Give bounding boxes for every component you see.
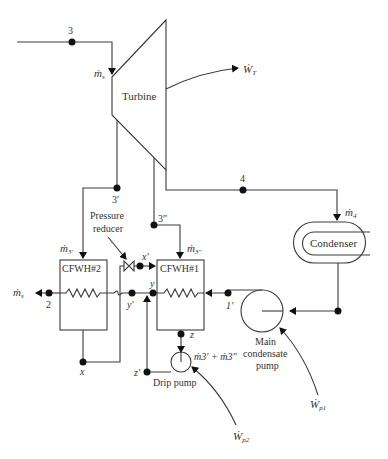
- drip-flow-label: ṁ3′ + ṁ3″: [194, 351, 237, 362]
- turbine-work-label: ẆT: [243, 63, 257, 77]
- extraction-3prime: 3′ ṁ3′: [60, 120, 121, 258]
- cfwh1: CFWH#1 z: [157, 260, 204, 352]
- pump1-work-arrow: [280, 328, 318, 395]
- pump2-work-label: Ẇp2: [233, 430, 250, 444]
- state-xp-label: x′: [141, 251, 149, 262]
- ms-in-label: ṁs: [94, 67, 105, 81]
- turbine: Turbine ẆT: [112, 20, 257, 170]
- pump1-work-label: Ẇp1: [310, 398, 326, 412]
- turbine-work-arrow: [166, 68, 238, 89]
- state-y-label: y: [149, 278, 155, 289]
- feedwater-heater-cycle-diagram: 3 ṁs Turbine ẆT 3′ ṁ3′ 3″ ṁ3″ 4 ṁ4 Conde…: [0, 0, 388, 459]
- condenser-label: Condenser: [310, 237, 357, 249]
- pressure-reducer-valve: [124, 261, 134, 271]
- turbine-label: Turbine: [122, 90, 157, 102]
- state-3pp-label: 3″: [158, 213, 167, 224]
- ms-out-label: ṁs: [13, 286, 24, 300]
- m3p-label: ṁ3′: [60, 242, 73, 256]
- pressure-reducer-label-1: Pressure: [90, 210, 124, 221]
- state-1p-label: 1′: [226, 300, 234, 311]
- condenser: Condenser: [290, 222, 370, 315]
- drip-pump: z′ Drip pump ṁ3′ + ṁ3″ Ẇp2: [133, 296, 250, 444]
- state-3p-label: 3′: [112, 194, 119, 205]
- pressure-reducer-label-2: reducer: [93, 223, 124, 234]
- exhaust-line-4: 4 ṁ4: [166, 170, 357, 220]
- state-x-label: x: [79, 366, 85, 377]
- state-4-label: 4: [240, 173, 245, 184]
- main-pump-label-3: pump: [256, 360, 279, 371]
- state-zp-label: z′: [133, 367, 141, 378]
- m3pp-label: ṁ3″: [187, 242, 201, 256]
- main-pump-label-1: Main: [255, 336, 276, 347]
- extraction-3dprime: 3″ ṁ3″: [151, 158, 202, 258]
- pump2-work-arrow: [192, 367, 236, 425]
- feedwater-link: y′ y: [107, 278, 157, 310]
- drip-pump-label: Drip pump: [153, 377, 197, 388]
- state-z-label: z: [189, 329, 194, 340]
- cfwh2: CFWH#2 2 ṁs: [13, 260, 107, 330]
- state-2-label: 2: [46, 299, 51, 310]
- state-3-dot: [69, 39, 76, 46]
- inlet-line-3: 3 ṁs: [17, 25, 112, 81]
- state-3-label: 3: [68, 25, 73, 36]
- m4-label: ṁ4: [345, 206, 357, 220]
- main-pump-label-2: condensate: [243, 348, 288, 359]
- cfwh1-label: CFWH#1: [160, 263, 199, 274]
- cfwh2-label: CFWH#2: [62, 263, 101, 274]
- state-yp-label: y′: [126, 299, 134, 310]
